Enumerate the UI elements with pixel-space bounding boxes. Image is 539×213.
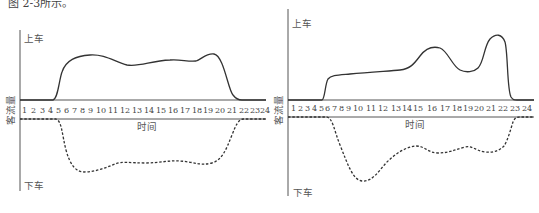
boarding-curve bbox=[288, 35, 534, 100]
svg-text:22: 22 bbox=[239, 106, 249, 115]
svg-text:10: 10 bbox=[96, 106, 106, 115]
x-axis-title: 时间 bbox=[137, 121, 157, 132]
svg-text:19: 19 bbox=[463, 104, 473, 113]
svg-text:20: 20 bbox=[215, 106, 225, 115]
svg-text:5: 5 bbox=[319, 104, 324, 113]
chart-right: 上车 下车 时间 客流量 1 2 3 4 5 6 7 8 9 10 11 12 … bbox=[273, 9, 534, 198]
svg-text:9: 9 bbox=[88, 106, 93, 115]
svg-text:1: 1 bbox=[291, 104, 296, 113]
svg-text:23: 23 bbox=[250, 106, 260, 115]
svg-text:15: 15 bbox=[413, 104, 423, 113]
svg-text:21: 21 bbox=[486, 104, 496, 113]
lower-label: 下车 bbox=[24, 180, 44, 191]
svg-text:12: 12 bbox=[378, 104, 388, 113]
svg-text:13: 13 bbox=[132, 106, 142, 115]
svg-text:7: 7 bbox=[72, 106, 77, 115]
svg-text:18: 18 bbox=[192, 106, 202, 115]
x-tick-labels: 1 2 3 4 5 6 7 8 9 10 11 12 13 14 15 16 1… bbox=[291, 104, 532, 113]
lower-label: 下车 bbox=[293, 187, 313, 198]
x-axis-title: 时间 bbox=[405, 119, 425, 130]
svg-text:18: 18 bbox=[452, 104, 462, 113]
svg-text:9: 9 bbox=[346, 104, 351, 113]
chart-left: 上车 下车 时间 客流量 1 2 3 4 5 6 7 8 9 10 11 12 … bbox=[5, 30, 270, 191]
svg-text:6: 6 bbox=[64, 106, 69, 115]
svg-text:5: 5 bbox=[56, 106, 61, 115]
svg-text:3: 3 bbox=[305, 104, 310, 113]
svg-text:23: 23 bbox=[510, 104, 520, 113]
y-axis-title: 客流量 bbox=[273, 95, 284, 125]
svg-text:20: 20 bbox=[474, 104, 484, 113]
svg-text:17: 17 bbox=[440, 104, 450, 113]
svg-text:24: 24 bbox=[260, 106, 270, 115]
svg-text:19: 19 bbox=[203, 106, 213, 115]
svg-text:7: 7 bbox=[332, 104, 337, 113]
svg-text:17: 17 bbox=[180, 106, 190, 115]
boarding-curve bbox=[20, 54, 266, 100]
svg-text:11: 11 bbox=[366, 104, 376, 113]
svg-text:4: 4 bbox=[312, 104, 317, 113]
svg-text:16: 16 bbox=[168, 106, 178, 115]
svg-text:8: 8 bbox=[80, 106, 85, 115]
svg-text:24: 24 bbox=[522, 104, 532, 113]
svg-text:11: 11 bbox=[108, 106, 118, 115]
svg-text:8: 8 bbox=[339, 104, 344, 113]
svg-text:13: 13 bbox=[391, 104, 401, 113]
svg-text:16: 16 bbox=[427, 104, 437, 113]
charts-canvas: 上车 下车 时间 客流量 1 2 3 4 5 6 7 8 9 10 11 12 … bbox=[0, 0, 539, 213]
svg-text:3: 3 bbox=[40, 106, 45, 115]
svg-text:4: 4 bbox=[48, 106, 53, 115]
upper-label: 上车 bbox=[24, 33, 44, 44]
svg-text:12: 12 bbox=[120, 106, 130, 115]
svg-text:14: 14 bbox=[144, 106, 154, 115]
svg-text:2: 2 bbox=[298, 104, 303, 113]
upper-label: 上车 bbox=[292, 18, 312, 29]
svg-text:2: 2 bbox=[31, 106, 36, 115]
svg-text:21: 21 bbox=[227, 106, 237, 115]
svg-text:14: 14 bbox=[402, 104, 412, 113]
svg-text:1: 1 bbox=[22, 106, 27, 115]
svg-text:10: 10 bbox=[353, 104, 363, 113]
x-tick-labels: 1 2 3 4 5 6 7 8 9 10 11 12 13 14 15 16 1… bbox=[22, 106, 270, 115]
svg-text:22: 22 bbox=[498, 104, 508, 113]
svg-text:15: 15 bbox=[156, 106, 166, 115]
y-axis-title: 客流量 bbox=[5, 95, 16, 125]
svg-text:6: 6 bbox=[325, 104, 330, 113]
